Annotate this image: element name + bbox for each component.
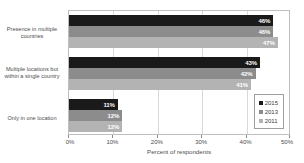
x-tick-label-50: 50% xyxy=(281,139,293,145)
bar-2015[interactable]: 43% xyxy=(69,57,260,68)
x-tick-label-40: 40% xyxy=(240,139,252,145)
x-tick-label-0: 0% xyxy=(66,139,75,145)
legend-swatch-icon xyxy=(259,101,263,105)
bar-value-label: 43% xyxy=(245,60,257,66)
legend-swatch-icon xyxy=(259,110,263,114)
tick-mark xyxy=(112,135,113,138)
category-label-presence-multiple-countries: Presence in multiple countries xyxy=(0,26,64,40)
bar-2013[interactable]: 46% xyxy=(69,26,273,37)
bar-value-label: 42% xyxy=(241,71,253,77)
bar-value-label: 12% xyxy=(108,113,120,119)
bar-value-label: 47% xyxy=(263,40,275,46)
x-tick-label-10: 10% xyxy=(106,139,118,145)
tick-mark xyxy=(201,135,202,138)
bar-2013[interactable]: 12% xyxy=(69,110,122,121)
legend-item-2013[interactable]: 2013 xyxy=(259,107,278,116)
x-axis-title: Percent of respondents xyxy=(68,148,290,155)
legend-item-2011[interactable]: 2011 xyxy=(259,116,278,125)
bar-2015[interactable]: 11% xyxy=(69,99,118,110)
x-axis: 0% 10% 20% 30% 40% 50% xyxy=(68,135,290,147)
bar-chart: Presence in multiple countries Multiple … xyxy=(0,0,304,163)
bar-2011[interactable]: 47% xyxy=(69,37,278,48)
category-axis-labels: Presence in multiple countries Multiple … xyxy=(0,10,66,135)
bar-2011[interactable]: 41% xyxy=(69,79,251,90)
bar-2013[interactable]: 42% xyxy=(69,68,256,79)
category-label-multiple-locations-single-country: Multiple locations but within a single c… xyxy=(0,66,64,80)
tick-mark xyxy=(289,135,290,138)
bar-value-label: 12% xyxy=(108,124,120,130)
plot-area: 46% 46% 47% 43% xyxy=(68,10,290,135)
bar-value-label: 11% xyxy=(103,102,114,108)
legend-swatch-icon xyxy=(259,119,263,123)
legend-item-2015[interactable]: 2015 xyxy=(259,98,278,107)
legend-label: 2015 xyxy=(265,100,278,106)
tick-mark xyxy=(246,135,247,138)
legend: 2015 2013 2011 xyxy=(254,94,284,129)
tick-mark xyxy=(157,135,158,138)
legend-label: 2013 xyxy=(265,109,278,115)
bar-value-label: 46% xyxy=(258,18,270,24)
bar-2011[interactable]: 12% xyxy=(69,121,122,132)
legend-label: 2011 xyxy=(265,118,278,124)
bar-value-label: 41% xyxy=(236,82,248,88)
x-tick-label-30: 30% xyxy=(195,139,207,145)
bar-2015[interactable]: 46% xyxy=(69,15,273,26)
x-tick-label-20: 20% xyxy=(151,139,163,145)
category-label-only-one-location: Only in one location xyxy=(0,115,64,122)
tick-mark xyxy=(68,135,69,138)
bar-value-label: 46% xyxy=(258,29,270,35)
